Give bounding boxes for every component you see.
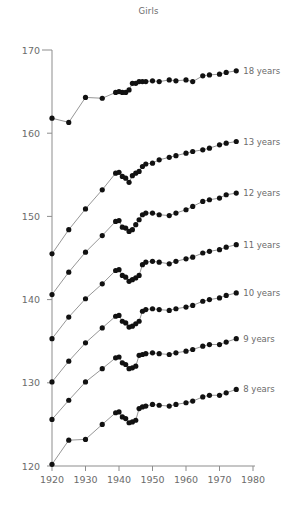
data-point xyxy=(66,314,71,319)
data-point xyxy=(167,77,172,82)
data-point xyxy=(157,351,162,356)
data-point xyxy=(116,218,121,223)
y-tick-label: 140 xyxy=(22,294,40,305)
data-point xyxy=(200,199,205,204)
data-point xyxy=(49,417,54,422)
data-point xyxy=(150,350,155,355)
data-point xyxy=(66,359,71,364)
data-point xyxy=(234,387,239,392)
data-point xyxy=(200,299,205,304)
data-point xyxy=(183,304,188,309)
data-point xyxy=(200,394,205,399)
data-point xyxy=(100,422,105,427)
data-point xyxy=(224,293,229,298)
x-tick-label: 1960 xyxy=(174,474,198,485)
data-point xyxy=(217,247,222,252)
data-point xyxy=(150,210,155,215)
data-point xyxy=(234,139,239,144)
data-point xyxy=(157,403,162,408)
data-point xyxy=(137,273,142,278)
data-point xyxy=(173,350,178,355)
data-point xyxy=(224,141,229,146)
y-axis: 120130140150160170 xyxy=(22,45,52,472)
series-label-13-years: 13 years xyxy=(243,137,280,147)
y-tick-label: 170 xyxy=(22,45,40,56)
data-point xyxy=(190,399,195,404)
data-point xyxy=(234,290,239,295)
data-point xyxy=(123,362,128,367)
data-point xyxy=(207,249,212,254)
series-line xyxy=(52,293,236,382)
data-point xyxy=(234,68,239,73)
data-point xyxy=(217,142,222,147)
series-line xyxy=(52,71,236,123)
data-point xyxy=(49,336,54,341)
data-point xyxy=(234,242,239,247)
data-point xyxy=(167,261,172,266)
data-point xyxy=(190,79,195,84)
data-point xyxy=(207,72,212,77)
data-point xyxy=(83,250,88,255)
x-tick-label: 1920 xyxy=(40,474,64,485)
data-point xyxy=(224,192,229,197)
data-point xyxy=(137,319,142,324)
data-point xyxy=(49,116,54,121)
data-point xyxy=(126,87,131,92)
y-tick-label: 160 xyxy=(22,128,40,139)
data-point xyxy=(200,147,205,152)
data-point xyxy=(183,77,188,82)
series-label-9-years: 9 years xyxy=(243,334,275,344)
data-point xyxy=(200,344,205,349)
series-labels: 18 years13 years12 years11 years10 years… xyxy=(243,66,280,395)
data-point xyxy=(190,149,195,154)
chart-plot-area: 120130140150160170 192019301940195019601… xyxy=(0,0,297,517)
data-point xyxy=(143,404,148,409)
data-point xyxy=(123,416,128,421)
data-point xyxy=(143,210,148,215)
x-tick-label: 1980 xyxy=(241,474,265,485)
data-point xyxy=(133,364,138,369)
data-point xyxy=(66,398,71,403)
data-point xyxy=(83,206,88,211)
data-point xyxy=(150,306,155,311)
data-point xyxy=(217,342,222,347)
data-point xyxy=(83,296,88,301)
data-point xyxy=(173,78,178,83)
data-point xyxy=(173,210,178,215)
data-point xyxy=(217,393,222,398)
data-point xyxy=(234,191,239,196)
data-point xyxy=(224,390,229,395)
data-point xyxy=(234,336,239,341)
data-point xyxy=(224,70,229,75)
data-point xyxy=(123,275,128,280)
series-label-12-years: 12 years xyxy=(243,188,280,198)
data-point xyxy=(150,161,155,166)
data-point xyxy=(207,146,212,151)
data-point xyxy=(143,79,148,84)
data-point xyxy=(123,176,128,181)
data-point xyxy=(83,340,88,345)
data-point xyxy=(167,155,172,160)
data-point xyxy=(167,308,172,313)
data-point xyxy=(130,227,135,232)
data-point xyxy=(116,354,121,359)
series-label-10-years: 10 years xyxy=(243,288,280,298)
data-point xyxy=(207,197,212,202)
data-point xyxy=(133,222,138,227)
data-point xyxy=(143,351,148,356)
x-tick-label: 1950 xyxy=(140,474,164,485)
data-point xyxy=(66,227,71,232)
x-tick-label: 1930 xyxy=(73,474,97,485)
data-point xyxy=(217,295,222,300)
data-point xyxy=(167,213,172,218)
data-point xyxy=(116,267,121,272)
data-point xyxy=(167,352,172,357)
data-point xyxy=(49,292,54,297)
growth-chart: Girls 120130140150160170 192019301940195… xyxy=(0,0,297,517)
x-axis: 1920193019401950196019701980 xyxy=(40,466,265,485)
data-point xyxy=(150,78,155,83)
x-tick-label: 1940 xyxy=(107,474,131,485)
data-point xyxy=(100,366,105,371)
data-point xyxy=(137,217,142,222)
data-point xyxy=(200,73,205,78)
